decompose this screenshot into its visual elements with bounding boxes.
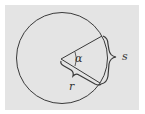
radius-label: r: [69, 80, 75, 93]
arc-label: s: [122, 50, 128, 63]
angle-label: α: [75, 52, 83, 65]
circle-sector-diagram: α s r: [0, 0, 145, 114]
